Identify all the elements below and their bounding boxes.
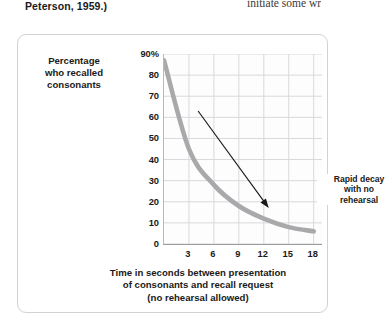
annotation-line-2: with no (317, 184, 389, 194)
arrow-shaft (198, 111, 265, 202)
x-tick-label: 3 (185, 249, 190, 259)
x-tick-label: 12 (258, 249, 268, 259)
x-tick-label: 6 (210, 249, 215, 259)
y-axis-title-line-2: who recalled (30, 67, 118, 79)
y-tick-label: 10 (149, 218, 159, 228)
body-text-fragment: initiate some wr (247, 0, 321, 8)
plot-wrapper: 0102030405060708090% 369121518 Rapid dec… (131, 54, 321, 254)
figure-caption-tail: Peterson, 1959.) (25, 0, 107, 12)
y-axis-title: Percentage who recalled consonants (30, 55, 118, 92)
x-axis-title-line-1: Time in seconds between presentation (78, 267, 318, 279)
plot-area (163, 54, 322, 245)
figure-container: Percentage who recalled consonants 01020… (17, 34, 328, 313)
chart-annotation: Rapid decay with no rehearsal (317, 174, 389, 205)
y-tick-label: 90% (140, 49, 159, 59)
y-axis-title-line-1: Percentage (30, 55, 118, 67)
y-tick-label: 40 (149, 155, 159, 165)
arrow-head (260, 198, 268, 208)
x-tick-label: 18 (308, 249, 318, 259)
x-tick-label: 15 (283, 249, 293, 259)
y-tick-label: 80 (149, 70, 159, 80)
y-axis-tick-labels: 0102030405060708090% (131, 54, 159, 248)
x-axis-title: Time in seconds between presentation of … (78, 267, 318, 304)
y-tick-label: 50 (149, 133, 159, 143)
x-axis-title-line-3: (no rehearsal allowed) (78, 292, 318, 304)
y-tick-label: 20 (149, 197, 159, 207)
y-tick-label: 0 (154, 239, 159, 249)
annotation-line-3: rehearsal (317, 195, 389, 205)
x-axis-title-line-2: of consonants and recall request (78, 279, 318, 291)
y-axis-title-line-3: consonants (30, 79, 118, 91)
x-tick-label: 9 (235, 249, 240, 259)
chart-svg (164, 54, 322, 244)
annotation-line-1: Rapid decay (317, 174, 389, 184)
x-axis-tick-labels: 369121518 (163, 246, 321, 262)
y-tick-label: 60 (149, 112, 159, 122)
y-tick-label: 30 (149, 176, 159, 186)
y-tick-label: 70 (149, 91, 159, 101)
